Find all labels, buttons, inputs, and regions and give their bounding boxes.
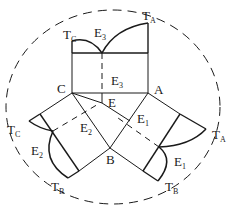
label-vertex-A: A xyxy=(154,82,164,97)
right-face-E1 xyxy=(110,93,206,181)
tetrahedron-net-diagram: TC E3 TA C E3 A E E2 E1 TC E2 B E1 TA TB… xyxy=(0,0,231,206)
left-face-E2 xyxy=(29,93,110,178)
label-vertex-B: B xyxy=(106,152,115,167)
label-E2-inner: E2 xyxy=(80,120,92,137)
label-E1-outer: E1 xyxy=(174,154,186,171)
label-E2-outer: E2 xyxy=(31,143,43,160)
label-TC-left: TC xyxy=(7,122,20,139)
label-E3-top: E3 xyxy=(94,25,106,42)
label-vertex-C: C xyxy=(57,81,66,96)
label-TB-right: TB xyxy=(165,179,178,196)
label-TA-top: TA xyxy=(142,8,156,25)
diagram-canvas: TC E3 TA C E3 A E E2 E1 TC E2 B E1 TA TB… xyxy=(0,0,231,206)
label-TC-top: TC xyxy=(63,27,76,44)
label-TB-left: TB xyxy=(51,179,64,196)
label-E1-inner: E1 xyxy=(137,111,149,128)
label-E3-mid: E3 xyxy=(111,73,123,90)
top-face-E3 xyxy=(72,23,148,93)
label-vertex-E: E xyxy=(108,95,116,110)
label-TA-right: TA xyxy=(212,127,226,144)
